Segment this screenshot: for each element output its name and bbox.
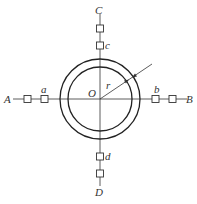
label-C: C [95, 4, 103, 16]
label-D: D [94, 186, 103, 198]
label-O: O [88, 87, 96, 99]
marker-a [41, 96, 48, 103]
marker-B-outer [169, 96, 176, 103]
marker-C-outer [97, 25, 104, 32]
marker-b [152, 96, 159, 103]
label-A: A [3, 93, 11, 105]
marker-D-outer [97, 170, 104, 177]
label-B: B [186, 93, 193, 105]
marker-c [97, 42, 104, 49]
label-r: r [106, 79, 111, 91]
label-c: c [105, 39, 110, 51]
marker-A-outer [24, 96, 31, 103]
label-b: b [154, 83, 160, 95]
label-a: a [41, 83, 47, 95]
label-d: d [105, 150, 111, 162]
diagram-canvas: A B C D a b c d O r [0, 0, 197, 204]
marker-d [97, 153, 104, 160]
